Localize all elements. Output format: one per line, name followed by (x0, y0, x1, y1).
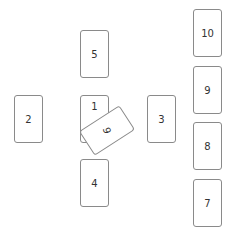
card-4: 4 (80, 159, 109, 207)
card-number: 7 (204, 198, 210, 209)
card-3: 3 (147, 95, 176, 143)
card-5: 5 (80, 30, 109, 78)
card-8: 8 (193, 122, 222, 170)
card-number: 5 (91, 49, 97, 60)
card-2: 2 (14, 95, 43, 143)
card-number: 2 (25, 114, 31, 125)
card-10: 10 (193, 9, 222, 57)
card-number: 4 (91, 178, 97, 189)
card-number: 1 (81, 101, 108, 112)
card-number: 9 (204, 85, 210, 96)
card-number: 10 (201, 28, 214, 39)
card-9: 9 (193, 66, 222, 114)
card-7: 7 (193, 179, 222, 227)
card-number: 3 (158, 114, 164, 125)
card-number: 6 (101, 126, 113, 135)
card-number: 8 (204, 141, 210, 152)
